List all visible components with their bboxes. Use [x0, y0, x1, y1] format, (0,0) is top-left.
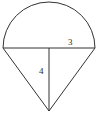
figure-svg: [0, 0, 98, 114]
dimension-label-top-side: 3: [68, 38, 73, 47]
geometry-figure: 3 4: [0, 0, 98, 114]
semicircle-arc: [3, 2, 95, 48]
dimension-label-height: 4: [39, 67, 44, 76]
